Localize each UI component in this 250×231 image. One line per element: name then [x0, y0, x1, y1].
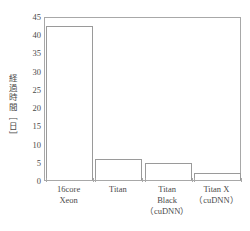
x-tick-mark	[93, 178, 94, 182]
x-tick-mark	[194, 178, 195, 182]
x-tick-mark	[46, 178, 47, 182]
x-axis-category-line: Black	[143, 195, 192, 206]
y-tick-label: 40	[19, 31, 41, 40]
y-tick-label: 30	[19, 67, 41, 76]
bar-chart: 経過時間［日］ 051015202530354045 16coreXeonTit…	[0, 0, 250, 231]
x-axis-category-line: Titan	[143, 184, 192, 195]
x-axis-category-line: Titan X	[192, 184, 241, 195]
bar	[145, 163, 192, 180]
y-tick-label: 20	[19, 104, 41, 113]
y-tick-label: 0	[19, 177, 41, 186]
x-axis-category-label: 16coreXeon	[44, 184, 93, 206]
x-axis-category-line: （cuDNN）	[192, 195, 241, 206]
y-tick-label: 35	[19, 49, 41, 58]
x-axis-category-line: Xeon	[44, 195, 93, 206]
x-axis-category-label: Titan X（cuDNN）	[192, 184, 241, 206]
y-tick-label: 15	[19, 122, 41, 131]
x-tick-mark	[142, 178, 143, 182]
x-axis-labels: 16coreXeonTitanTitanBlack（cuDNN）Titan X（…	[44, 184, 241, 230]
y-tick-label: 10	[19, 140, 41, 149]
bar	[46, 26, 93, 180]
x-tick-mark	[192, 178, 193, 182]
x-axis-category-line: 16core	[44, 184, 93, 195]
x-axis-category-label: Titan	[93, 184, 142, 195]
y-tick-label: 5	[19, 159, 41, 168]
x-tick-mark	[145, 178, 146, 182]
bar	[194, 173, 241, 180]
y-tick-label: 25	[19, 86, 41, 95]
plot-area	[44, 17, 241, 181]
y-axis-title: 経過時間［日］	[4, 52, 20, 162]
bar	[95, 159, 142, 180]
y-tick-label: 45	[19, 13, 41, 22]
x-axis-category-label: TitanBlack（cuDNN）	[143, 184, 192, 217]
x-tick-mark	[95, 178, 96, 182]
x-axis-category-line: Titan	[93, 184, 142, 195]
x-axis-category-line: （cuDNN）	[143, 206, 192, 217]
x-tick-mark	[241, 178, 242, 182]
